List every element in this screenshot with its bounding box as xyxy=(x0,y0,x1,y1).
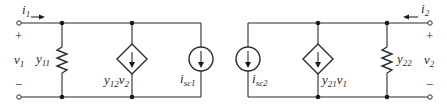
junction-node xyxy=(316,21,321,26)
port1-top-terminal xyxy=(17,21,21,25)
two-port-circuit-diagram: i1 + − v1 y11 y12v2 isc1 isc2 y21v1 y22 … xyxy=(0,0,447,107)
resistor-y22 xyxy=(382,23,392,97)
junction-node xyxy=(385,95,390,100)
label-y22: y22 xyxy=(395,51,412,68)
junction-node xyxy=(60,21,65,26)
junction-node xyxy=(130,21,135,26)
label-y11: y11 xyxy=(34,51,50,68)
label-y21v1: y21v1 xyxy=(320,72,347,89)
label-y12v2: y12v2 xyxy=(102,72,130,89)
port2-minus-sign: − xyxy=(426,77,433,92)
junction-node xyxy=(385,21,390,26)
port2-bottom-terminal xyxy=(428,95,432,99)
label-isc1: isc1 xyxy=(180,71,196,88)
junction-node xyxy=(60,95,65,100)
label-v1: v1 xyxy=(14,52,24,69)
port1-plus-sign: + xyxy=(15,28,22,43)
resistor-y11 xyxy=(57,23,67,97)
port2-plus-sign: + xyxy=(426,28,433,43)
label-i2: i2 xyxy=(421,1,430,18)
junction-node xyxy=(130,95,135,100)
port2-top-terminal xyxy=(428,21,432,25)
label-v2: v2 xyxy=(424,52,435,69)
label-isc2: isc2 xyxy=(252,71,268,88)
port1-bottom-terminal xyxy=(17,95,21,99)
port1-minus-sign: − xyxy=(15,77,22,92)
junction-node xyxy=(316,95,321,100)
label-i1: i1 xyxy=(22,2,30,19)
